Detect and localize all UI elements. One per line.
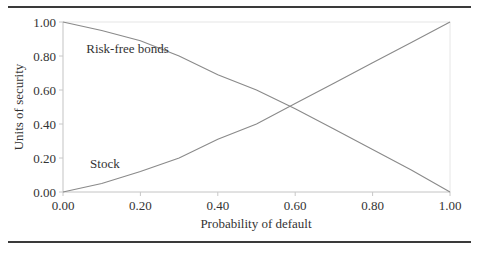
x-axis-label: Probability of default — [200, 216, 312, 231]
x-tick-label: 0.40 — [206, 198, 229, 213]
line-chart: 0.000.200.400.600.801.00 0.000.200.400.6… — [0, 0, 479, 253]
series-label: Risk-free bonds — [86, 41, 169, 56]
x-tick-label: 0.20 — [129, 198, 152, 213]
x-tick-label: 0.80 — [361, 198, 384, 213]
series-label: Stock — [90, 156, 120, 171]
x-tick-label: 0.00 — [52, 198, 75, 213]
series-labels: Risk-free bondsStock — [86, 41, 169, 172]
y-tick-label: 0.20 — [33, 151, 56, 166]
y-tick-label: 0.60 — [33, 83, 56, 98]
y-tick-label: 1.00 — [33, 15, 56, 30]
x-axis: 0.000.200.400.600.801.00 — [52, 192, 462, 213]
y-axis-label: Units of security — [11, 63, 26, 150]
x-tick-label: 1.00 — [439, 198, 462, 213]
x-tick-label: 0.60 — [284, 198, 307, 213]
y-axis: 0.000.200.400.600.801.00 — [33, 15, 63, 200]
y-tick-label: 0.40 — [33, 117, 56, 132]
y-tick-label: 0.80 — [33, 49, 56, 64]
